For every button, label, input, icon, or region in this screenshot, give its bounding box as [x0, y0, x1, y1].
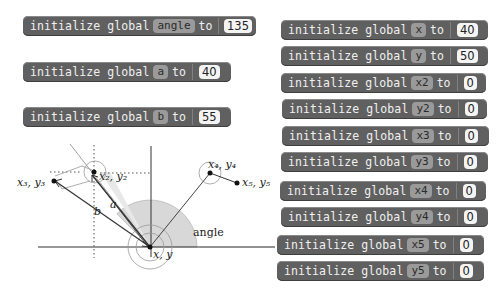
variable-name-field[interactable]: x3	[412, 129, 433, 143]
variable-name-field[interactable]: y3	[411, 155, 432, 169]
label-angle: angle	[193, 226, 224, 239]
point-p3	[52, 179, 57, 184]
socket-notch	[192, 109, 196, 125]
number-value-field[interactable]: 135	[224, 19, 252, 33]
block-keyword: initialize global	[288, 210, 407, 224]
socket-notch	[457, 154, 461, 170]
point-p4	[208, 171, 213, 176]
socket-notch	[458, 101, 462, 117]
number-value-field[interactable]: 55	[199, 110, 220, 124]
number-value-field[interactable]: 0	[465, 102, 478, 116]
variable-name-field[interactable]: a	[153, 65, 168, 79]
geometry-diagram: x, y x₂, y₂ x₃, y₃ x₄, y₄ x₅, y₅ a b ang…	[0, 140, 280, 297]
block-to-label: to	[437, 155, 451, 169]
init-global-y-block[interactable]: initialize global y to 50	[281, 46, 488, 66]
variable-name-field[interactable]: y5	[407, 264, 428, 278]
init-global-y3-block[interactable]: initialize global y3 to 0	[281, 152, 488, 172]
block-to-label: to	[433, 238, 447, 252]
block-to-label: to	[437, 210, 451, 224]
socket-notch	[458, 128, 462, 144]
variable-name-field[interactable]: x5	[407, 238, 428, 252]
point-p1	[148, 245, 153, 250]
block-keyword: initialize global	[288, 23, 407, 37]
init-global-x3-block[interactable]: initialize global x3 to 0	[282, 126, 489, 146]
block-keyword: initialize global	[288, 155, 407, 169]
socket-notch	[456, 183, 460, 199]
block-to-label: to	[433, 264, 447, 278]
socket-notch	[457, 75, 461, 91]
init-global-b-block[interactable]: initialize global b to 55	[23, 107, 231, 127]
number-value-field[interactable]: 0	[465, 129, 478, 143]
variable-name-field[interactable]: angle	[153, 19, 194, 33]
block-keyword: initialize global	[30, 110, 149, 124]
number-value-field[interactable]: 0	[464, 155, 477, 169]
block-to-label: to	[438, 102, 452, 116]
block-to-label: to	[172, 110, 186, 124]
init-global-y4-block[interactable]: initialize global y4 to 0	[281, 207, 488, 227]
variable-name-field[interactable]: b	[153, 110, 168, 124]
init-global-angle-block[interactable]: initialize global angle to 135	[23, 16, 256, 36]
init-global-x5-block[interactable]: initialize global x5 to 0	[277, 235, 484, 255]
block-to-label: to	[430, 23, 444, 37]
variable-name-field[interactable]: y2	[412, 102, 433, 116]
socket-notch	[450, 48, 454, 64]
variable-name-field[interactable]: x	[411, 23, 426, 37]
label-p4: x₄, y₄	[208, 158, 236, 171]
number-value-field[interactable]: 0	[460, 238, 473, 252]
label-a: a	[110, 198, 117, 211]
block-to-label: to	[430, 49, 444, 63]
block-keyword: initialize global	[284, 264, 403, 278]
point-p5	[235, 181, 240, 186]
block-keyword: initialize global	[289, 102, 408, 116]
block-keyword: initialize global	[30, 65, 149, 79]
init-global-a-block[interactable]: initialize global a to 40	[23, 62, 231, 82]
variable-name-field[interactable]: x4	[410, 184, 431, 198]
label-p2: x₂, y₂	[99, 170, 127, 183]
socket-notch	[218, 18, 221, 34]
label-p1: x, y	[153, 248, 173, 261]
block-to-label: to	[199, 19, 213, 33]
socket-notch	[450, 22, 454, 38]
socket-notch	[457, 209, 461, 225]
block-keyword: initialize global	[284, 238, 403, 252]
point-p2	[92, 170, 97, 175]
block-to-label: to	[436, 184, 450, 198]
label-p3: x₃, y₃	[17, 176, 45, 189]
init-global-y5-block[interactable]: initialize global y5 to 0	[277, 261, 484, 281]
number-value-field[interactable]: 50	[457, 49, 478, 63]
init-global-x-block[interactable]: initialize global x to 40	[281, 20, 488, 40]
variable-name-field[interactable]: x2	[411, 76, 432, 90]
block-keyword: initialize global	[288, 76, 407, 90]
number-value-field[interactable]: 0	[464, 210, 477, 224]
number-value-field[interactable]: 0	[460, 264, 473, 278]
socket-notch	[192, 64, 196, 80]
label-b: b	[94, 205, 101, 218]
number-value-field[interactable]: 0	[464, 76, 477, 90]
block-to-label: to	[437, 76, 451, 90]
init-global-x4-block[interactable]: initialize global x4 to 0	[280, 181, 486, 201]
socket-notch	[453, 237, 457, 253]
block-keyword: initialize global	[289, 129, 408, 143]
variable-name-field[interactable]: y4	[411, 210, 432, 224]
block-to-label: to	[438, 129, 452, 143]
label-p5: x₅, y₅	[242, 176, 271, 189]
block-keyword: initialize global	[288, 49, 407, 63]
number-value-field[interactable]: 0	[463, 184, 476, 198]
block-to-label: to	[172, 65, 186, 79]
init-global-y2-block[interactable]: initialize global y2 to 0	[282, 99, 487, 119]
number-value-field[interactable]: 40	[457, 23, 478, 37]
block-keyword: initialize global	[30, 19, 149, 33]
segment-p4-to-p5	[210, 173, 237, 183]
number-value-field[interactable]: 40	[199, 65, 220, 79]
init-global-x2-block[interactable]: initialize global x2 to 0	[281, 73, 486, 93]
socket-notch	[453, 263, 457, 279]
variable-name-field[interactable]: y	[411, 49, 426, 63]
block-keyword: initialize global	[287, 184, 406, 198]
